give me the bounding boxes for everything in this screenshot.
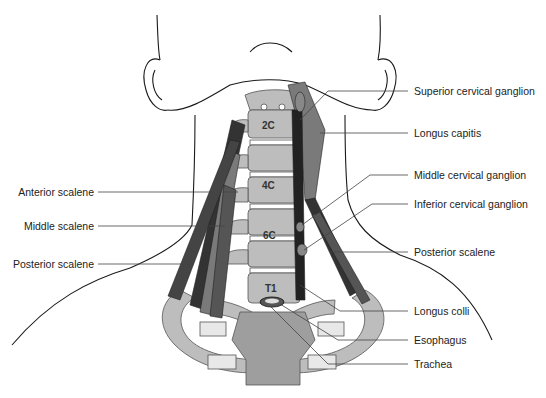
inferior-ganglion xyxy=(297,244,307,256)
left-scalenes xyxy=(168,120,245,318)
label-anterior-scalene: Anterior scalene xyxy=(18,186,94,198)
vertebra-label-4c: 4C xyxy=(262,180,275,191)
vertebra-label-t1: T1 xyxy=(265,283,277,294)
label-posterior-scalene-left: Posterior scalene xyxy=(13,258,94,270)
middle-ganglion xyxy=(296,222,304,232)
vertebra-label-6c: 6C xyxy=(263,230,276,241)
label-longus-capitis: Longus capitis xyxy=(414,127,481,139)
label-middle-scalene: Middle scalene xyxy=(24,220,94,232)
label-esophagus: Esophagus xyxy=(414,334,467,346)
label-inferior-cervical-ganglion: Inferior cervical ganglion xyxy=(414,198,528,210)
label-posterior-scalene-right: Posterior scalene xyxy=(414,246,495,258)
superior-ganglion xyxy=(295,92,305,112)
right-muscles xyxy=(288,82,370,304)
trachea-esophagus xyxy=(260,297,284,307)
vertebra-label-2c: 2C xyxy=(262,120,275,131)
label-superior-cervical-ganglion: Superior cervical ganglion xyxy=(414,85,535,97)
label-longus-colli: Longus colli xyxy=(414,305,469,317)
label-trachea: Trachea xyxy=(414,358,452,370)
label-middle-cervical-ganglion: Middle cervical ganglion xyxy=(414,169,526,181)
